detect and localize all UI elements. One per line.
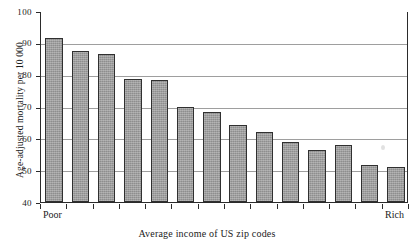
x-axis-tick-mark	[198, 204, 199, 209]
bar	[387, 167, 404, 202]
grid-line	[41, 108, 407, 109]
chart-figure: Age-adjusted mortality per 10 000 405060…	[0, 0, 414, 246]
x-axis-tick-mark	[119, 204, 120, 209]
grid-line	[41, 171, 407, 172]
bar	[308, 150, 325, 202]
x-axis-tick-mark	[145, 204, 146, 209]
bar	[361, 165, 378, 202]
bar	[282, 142, 299, 202]
y-axis-tick-label: 100	[12, 8, 32, 17]
bar	[72, 51, 89, 202]
y-axis-tick-label: 70	[12, 103, 32, 112]
y-axis-tick-label: 80	[12, 71, 32, 80]
bar	[335, 145, 352, 202]
y-axis-tick-label: 40	[12, 199, 32, 208]
bar	[256, 132, 273, 202]
y-axis-tick-label: 50	[12, 167, 32, 176]
x-axis-tick-mark	[171, 204, 172, 209]
bar	[98, 54, 115, 202]
x-axis-tick-mark	[382, 204, 383, 209]
bar	[45, 38, 62, 202]
x-axis-tick-mark	[224, 204, 225, 209]
x-axis-tick-mark	[93, 204, 94, 209]
bar	[177, 107, 194, 203]
x-axis-tick-mark	[277, 204, 278, 209]
x-axis-tick-mark	[355, 204, 356, 209]
y-axis-tick-label: 90	[12, 39, 32, 48]
x-axis-tick-mark	[303, 204, 304, 209]
bar	[124, 79, 141, 203]
y-axis-tick-label: 60	[12, 135, 32, 144]
bar	[203, 112, 220, 202]
x-axis-tick-mark	[250, 204, 251, 209]
x-axis-right-label: Rich	[385, 209, 404, 220]
grid-line	[41, 139, 407, 140]
x-axis-left-label: Poor	[43, 209, 62, 220]
x-axis-title: Average income of US zip codes	[0, 228, 414, 239]
scan-speck	[381, 145, 385, 150]
plot-area	[40, 12, 408, 203]
x-axis-tick-mark	[40, 204, 41, 209]
x-axis-tick-mark	[329, 204, 330, 209]
grid-line	[41, 44, 407, 45]
bar	[229, 125, 246, 202]
bar	[151, 80, 168, 202]
x-axis-tick-mark	[408, 204, 409, 209]
grid-line	[41, 76, 407, 77]
x-axis-tick-mark	[66, 204, 67, 209]
